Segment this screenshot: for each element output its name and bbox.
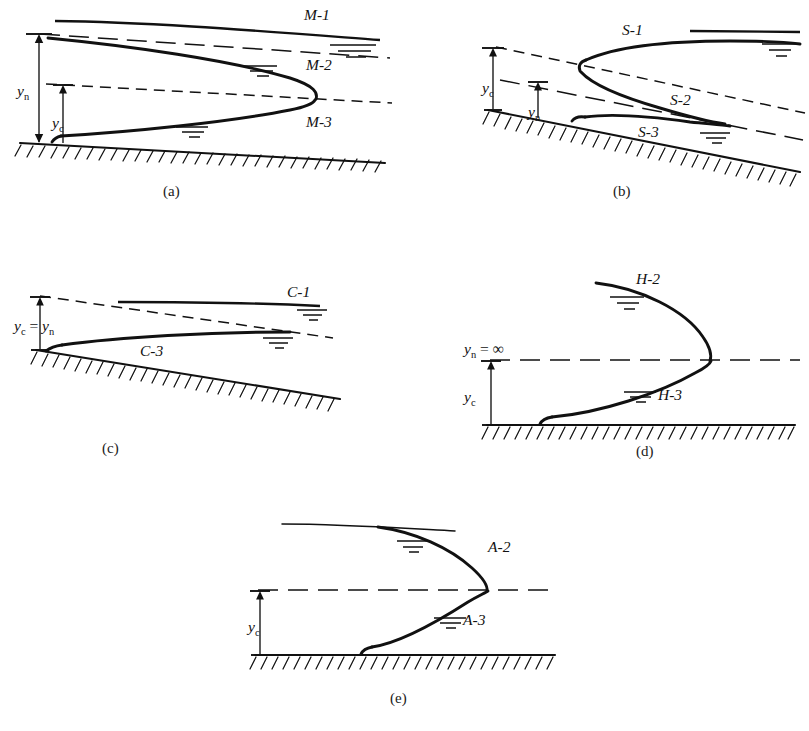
caption-panel-d: (d): [636, 443, 654, 460]
label-c3: C-3: [140, 342, 164, 359]
label-yc: yc: [462, 388, 476, 408]
label-yc: yc: [50, 114, 64, 134]
dimension-yn: [26, 34, 52, 143]
curve-m1: [55, 21, 380, 40]
critical-depth-line: [46, 84, 392, 103]
curve-s3-tail: [572, 117, 585, 121]
channel-bed-line: [36, 350, 340, 399]
label-a3: A-3: [462, 611, 486, 628]
panel-mild-slope: yn yc M-1 M-2 M-3: [0, 0, 400, 180]
curve-a2: [378, 527, 487, 591]
critical-depth-line: [496, 47, 805, 113]
dimension-yc: [481, 361, 501, 425]
bed-hatching: [15, 145, 381, 172]
curve-c1: [118, 302, 320, 306]
caption-panel-a: (a): [163, 183, 180, 200]
water-surface-mark-c3: [263, 338, 293, 348]
water-surface-mark-m1: [330, 45, 376, 57]
bed-hatching: [482, 427, 794, 439]
curve-h2: [596, 283, 711, 361]
panel-horizontal-bed: yn = ∞ yc H-2 H-3: [400, 255, 809, 455]
label-yn-infinity: yn = ∞: [462, 340, 504, 360]
water-surface-mark-m3: [176, 127, 208, 137]
surface-s1: [690, 31, 800, 32]
curve-h3-tail: [540, 417, 552, 424]
channel-bed-line: [20, 143, 385, 163]
curve-m2: [48, 38, 317, 99]
label-yc: yc: [480, 79, 494, 99]
bed-hatching: [250, 657, 553, 669]
label-s2: S-2: [670, 91, 691, 108]
label-c1: C-1: [287, 283, 310, 300]
curve-a2-tangent: [282, 524, 455, 531]
caption-panel-b: (b): [613, 183, 631, 200]
curve-m3: [61, 100, 315, 136]
curve-h3: [552, 361, 711, 417]
water-surface-mark-c1: [297, 310, 327, 320]
caption-panel-c: (c): [102, 440, 119, 457]
panel-adverse-slope: yc A-2 A-3: [200, 490, 620, 690]
label-yc-equals-yn: yc = yn: [12, 317, 55, 337]
label-m1: M-1: [303, 6, 330, 23]
water-surface-mark-s1: [762, 44, 796, 56]
caption-panel-e: (e): [390, 690, 407, 707]
label-yc: yc: [246, 618, 260, 638]
water-surface-mark-h2: [610, 297, 644, 309]
water-surface-mark-s3: [700, 133, 730, 143]
curve-m3-tail: [52, 136, 61, 142]
curve-a3-tail: [361, 647, 372, 654]
label-yn: yn: [15, 82, 30, 102]
label-h2: H-2: [635, 270, 660, 287]
panel-steep-slope: yc yn S-1 S-2 S-3: [400, 0, 809, 180]
label-h3: H-3: [657, 386, 682, 403]
label-m3: M-3: [305, 113, 332, 130]
curve-c3: [62, 332, 290, 345]
panel-critical-slope: yc = yn C-1 C-3: [0, 255, 400, 455]
water-surface-mark-a2: [397, 541, 428, 552]
label-a2: A-2: [487, 538, 511, 555]
label-s1: S-1: [622, 21, 643, 38]
label-m2: M-2: [305, 56, 332, 73]
label-s3: S-3: [638, 123, 659, 140]
bed-hatching: [31, 352, 334, 411]
